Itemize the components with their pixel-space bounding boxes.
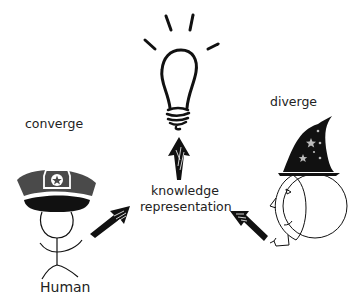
diagram-canvas: converge diverge knowledge representatio… xyxy=(0,0,357,307)
knowledge-label-line1: knowledge xyxy=(140,183,230,199)
knowledge-label-line2: representation xyxy=(140,199,230,215)
diagram-artwork xyxy=(0,0,357,307)
knowledge-representation-label: knowledge representation xyxy=(140,183,230,215)
human-label: Human xyxy=(40,279,91,295)
lightbulb-icon xyxy=(145,15,218,129)
human-stick-figure xyxy=(40,212,82,279)
arrow-up-icon xyxy=(168,137,190,180)
arrow-left-up-icon xyxy=(230,211,268,241)
diverge-caption: diverge xyxy=(270,94,317,109)
converge-caption: converge xyxy=(25,116,83,131)
police-cap-icon xyxy=(17,170,96,212)
wizard-face-icon xyxy=(270,174,347,246)
arrow-right-up-icon xyxy=(90,206,130,238)
wizard-hat-icon xyxy=(278,116,340,176)
